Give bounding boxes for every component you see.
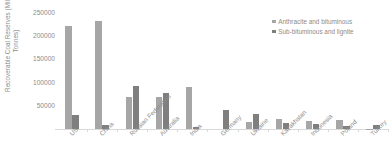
x-axis-tick-mark — [328, 129, 329, 132]
x-axis-tick-mark — [207, 129, 208, 132]
x-axis-tick-label: India — [188, 122, 203, 137]
x-axis-tick-mark — [388, 129, 389, 132]
legend-label: Sub-bituminous and lignite — [278, 28, 353, 36]
legend-item[interactable]: Sub-bituminous and lignite — [272, 27, 390, 36]
x-axis-tick-label: US — [68, 126, 80, 138]
x-axis-tick-label: Germany — [219, 113, 243, 137]
x-axis-tick-mark — [238, 129, 239, 132]
x-axis-tick-label: Poland — [339, 118, 359, 138]
legend-item[interactable]: Anthracite and bituminous — [272, 17, 390, 26]
x-axis-tick-mark — [298, 129, 299, 132]
x-axis-tick-mark — [177, 129, 178, 132]
bar-chart: Recoverable Coal Reserves (Million Tonne… — [0, 0, 392, 166]
legend-label: Anthracite and bituminous — [278, 18, 352, 26]
x-axis-tick-mark — [87, 129, 88, 132]
x-axis-tick-mark — [117, 129, 118, 132]
x-axis-tick-label: Kazakhstan — [279, 108, 308, 137]
legend-swatch-icon — [272, 20, 276, 24]
x-axis-tick-label: Australia — [158, 114, 181, 137]
x-axis-tick-label: Indonesia — [309, 112, 334, 137]
x-axis-tick-mark — [358, 129, 359, 132]
chart-legend: Anthracite and bituminousSub-bituminous … — [272, 17, 390, 37]
x-axis-tick-mark — [268, 129, 269, 132]
x-axis-tick-label: China — [98, 120, 115, 137]
x-axis-tick-label: Turkey — [369, 118, 388, 137]
x-axis-tick-mark — [147, 129, 148, 132]
x-axis-tick-label: Ukraine — [249, 116, 270, 137]
legend-swatch-icon — [272, 30, 276, 34]
